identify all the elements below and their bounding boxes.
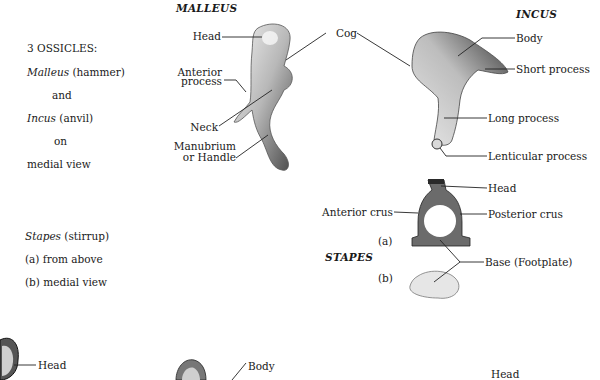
incus-body-label: Body: [516, 33, 543, 44]
stapes-view-b-label: (b): [378, 273, 393, 284]
legend-heading: 3 OSSICLES:: [27, 43, 97, 54]
legend-view-a: (a) from above: [25, 254, 103, 265]
stapes-head-label: Head: [488, 183, 516, 194]
malleus-anterior-label-2: process: [160, 76, 222, 87]
stapes-anterior-crus-label: Anterior crus: [310, 207, 393, 218]
malleus-manubrium-label-2: or Handle: [150, 152, 236, 163]
legend-on: on: [54, 136, 67, 147]
bottom-body-label: Body: [248, 361, 275, 372]
malleus-head-label: Head: [174, 31, 221, 42]
legend-medial-view: medial view: [27, 159, 91, 170]
legend-malleus: Malleus (hammer): [27, 67, 125, 78]
stapes-title: STAPES: [325, 252, 373, 263]
stapes-base-label: Base (Footplate): [485, 257, 572, 268]
stapes-view-a-label: (a): [378, 236, 392, 247]
incus-bone: [412, 32, 508, 149]
stapes-top-view: [412, 179, 470, 246]
legend-and: and: [52, 90, 72, 101]
cog-label: Cog: [336, 28, 357, 39]
malleus-manubrium-label-1: Manubrium: [150, 141, 236, 152]
malleus-title: MALLEUS: [176, 3, 237, 14]
stapes-footplate: [410, 271, 459, 298]
stapes-posterior-crus-label: Posterior crus: [488, 209, 563, 220]
bottom-head-right-label: Head: [491, 369, 519, 380]
incus-long-process-label: Long process: [488, 113, 559, 124]
legend-view-b: (b) medial view: [25, 277, 107, 288]
incus-short-process-label: Short process: [516, 64, 590, 75]
legend-incus: Incus (anvil): [27, 113, 93, 124]
incus-lenticular-process-label: Lenticular process: [488, 151, 587, 162]
incus-title: INCUS: [516, 9, 557, 20]
legend-stapes: Stapes (stirrup): [25, 231, 109, 242]
bottom-head-left-label: Head: [38, 360, 66, 371]
malleus-neck-label: Neck: [170, 122, 218, 133]
malleus-bone: [234, 24, 292, 170]
